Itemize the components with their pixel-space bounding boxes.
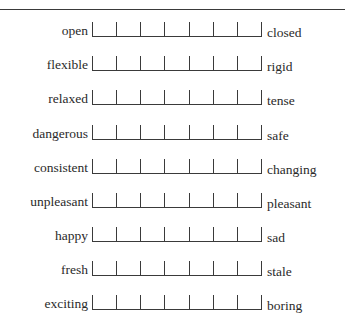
scale-box-7[interactable] <box>237 227 262 241</box>
right-adjective: pleasant <box>267 196 311 212</box>
scale-box-6[interactable] <box>213 125 237 139</box>
scale-box-2[interactable] <box>116 261 140 275</box>
scale-row-fresh-stale: fresh stale <box>0 258 345 278</box>
scale-row-relaxed-tense: relaxed tense <box>0 87 345 107</box>
scale-box-2[interactable] <box>116 193 140 207</box>
left-adjective: flexible <box>47 57 88 73</box>
scale-box-6[interactable] <box>213 193 237 207</box>
scale-box-2[interactable] <box>116 56 140 70</box>
scale-row-exciting-boring: exciting boring <box>0 292 345 312</box>
right-adjective: safe <box>267 128 289 144</box>
scale-box-6[interactable] <box>213 90 237 104</box>
right-adjective: sad <box>267 230 285 246</box>
scale-box-5[interactable] <box>189 22 213 36</box>
seven-point-scale <box>92 56 262 71</box>
scale-box-4[interactable] <box>164 193 188 207</box>
scale-box-3[interactable] <box>140 159 164 173</box>
scale-box-2[interactable] <box>116 22 140 36</box>
scale-box-7[interactable] <box>237 90 262 104</box>
scale-row-flexible-rigid: flexible rigid <box>0 53 345 73</box>
scale-row-unpleasant-pleasant: unpleasant pleasant <box>0 190 345 210</box>
left-adjective: dangerous <box>33 126 88 142</box>
seven-point-scale <box>92 159 262 174</box>
scale-box-1[interactable] <box>92 193 116 207</box>
scale-row-happy-sad: happy sad <box>0 224 345 244</box>
scale-box-5[interactable] <box>189 193 213 207</box>
seven-point-scale <box>92 90 262 105</box>
scale-box-7[interactable] <box>237 295 262 309</box>
scale-box-4[interactable] <box>164 261 188 275</box>
left-adjective: unpleasant <box>30 194 88 210</box>
scale-box-1[interactable] <box>92 56 116 70</box>
left-adjective: relaxed <box>48 91 88 107</box>
seven-point-scale <box>92 295 262 310</box>
scale-box-1[interactable] <box>92 22 116 36</box>
scale-box-4[interactable] <box>164 159 188 173</box>
scale-box-3[interactable] <box>140 193 164 207</box>
scale-box-4[interactable] <box>164 125 188 139</box>
seven-point-scale <box>92 193 262 208</box>
left-adjective: exciting <box>45 296 89 312</box>
left-adjective: open <box>62 23 88 39</box>
scale-box-2[interactable] <box>116 90 140 104</box>
scale-box-1[interactable] <box>92 295 116 309</box>
semantic-differential-scale: open closed flexible rigid relaxed <box>0 0 345 317</box>
scale-box-5[interactable] <box>189 227 213 241</box>
seven-point-scale <box>92 227 262 242</box>
scale-box-1[interactable] <box>92 261 116 275</box>
right-adjective: stale <box>267 264 292 280</box>
scale-box-7[interactable] <box>237 159 262 173</box>
scale-box-6[interactable] <box>213 261 237 275</box>
scale-box-1[interactable] <box>92 90 116 104</box>
scale-box-6[interactable] <box>213 227 237 241</box>
scale-box-2[interactable] <box>116 159 140 173</box>
scale-box-3[interactable] <box>140 22 164 36</box>
right-adjective: changing <box>267 162 317 178</box>
scale-box-4[interactable] <box>164 90 188 104</box>
seven-point-scale <box>92 125 262 140</box>
scale-row-consistent-changing: consistent changing <box>0 156 345 176</box>
scale-box-2[interactable] <box>116 125 140 139</box>
scale-box-2[interactable] <box>116 227 140 241</box>
left-adjective: fresh <box>61 262 88 278</box>
scale-box-5[interactable] <box>189 261 213 275</box>
scale-box-1[interactable] <box>92 159 116 173</box>
scale-box-2[interactable] <box>116 295 140 309</box>
scale-row-dangerous-safe: dangerous safe <box>0 122 345 142</box>
scale-box-5[interactable] <box>189 295 213 309</box>
right-adjective: closed <box>267 25 302 41</box>
scale-box-7[interactable] <box>237 261 262 275</box>
scale-box-7[interactable] <box>237 56 262 70</box>
scale-box-3[interactable] <box>140 56 164 70</box>
right-adjective: tense <box>267 93 295 109</box>
seven-point-scale <box>92 261 262 276</box>
scale-box-5[interactable] <box>189 56 213 70</box>
scale-box-5[interactable] <box>189 125 213 139</box>
scale-box-6[interactable] <box>213 22 237 36</box>
seven-point-scale <box>92 22 262 37</box>
scale-box-5[interactable] <box>189 90 213 104</box>
scale-box-7[interactable] <box>237 22 262 36</box>
scale-box-6[interactable] <box>213 56 237 70</box>
left-adjective: consistent <box>34 160 88 176</box>
scale-box-1[interactable] <box>92 227 116 241</box>
right-adjective: boring <box>267 298 302 314</box>
scale-box-3[interactable] <box>140 295 164 309</box>
scale-box-6[interactable] <box>213 295 237 309</box>
scale-box-1[interactable] <box>92 125 116 139</box>
scale-box-5[interactable] <box>189 159 213 173</box>
left-adjective: happy <box>55 228 88 244</box>
scale-box-4[interactable] <box>164 22 188 36</box>
scale-box-7[interactable] <box>237 125 262 139</box>
scale-box-3[interactable] <box>140 227 164 241</box>
scale-box-4[interactable] <box>164 227 188 241</box>
right-adjective: rigid <box>267 59 293 75</box>
scale-box-6[interactable] <box>213 159 237 173</box>
scale-row-open-closed: open closed <box>0 19 345 39</box>
scale-box-7[interactable] <box>237 193 262 207</box>
scale-box-3[interactable] <box>140 90 164 104</box>
scale-box-4[interactable] <box>164 295 188 309</box>
scale-box-3[interactable] <box>140 261 164 275</box>
scale-box-3[interactable] <box>140 125 164 139</box>
scale-box-4[interactable] <box>164 56 188 70</box>
